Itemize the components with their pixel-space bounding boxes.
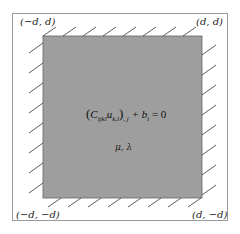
- corner-label-top-left: (−d, d): [20, 16, 55, 27]
- eq-c: C: [90, 108, 97, 120]
- eq-c-sub: ijkl: [98, 115, 107, 123]
- corner-label-bottom-right: (d, −d): [192, 209, 227, 220]
- material-parameters: μ, λ: [115, 142, 132, 152]
- governing-equation: (Cijkluk,l), j + bi = 0: [86, 106, 166, 123]
- eq-u-sub: k,l: [112, 115, 119, 123]
- eq-plus-b: + b: [129, 108, 147, 120]
- corner-label-bottom-left: (−d, −d): [16, 209, 60, 220]
- corner-label-top-right: (d, d): [196, 16, 223, 27]
- eq-equals-zero: = 0: [149, 108, 166, 120]
